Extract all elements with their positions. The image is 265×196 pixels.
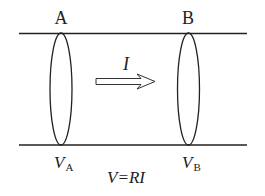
diagram-canvas: A B I VA VB V=RI	[0, 0, 265, 196]
label-a: A	[55, 8, 68, 28]
label-potential-b: VB	[182, 153, 201, 173]
cross-section-a	[50, 33, 72, 145]
current-arrow-icon	[96, 74, 155, 89]
potential-b-subscript: B	[193, 161, 200, 173]
cross-section-b	[178, 33, 200, 145]
label-ohms-law: V=RI	[107, 168, 146, 187]
label-current: I	[122, 54, 130, 74]
potential-a-subscript: A	[65, 161, 73, 173]
label-potential-a: VA	[54, 153, 73, 173]
conductor-diagram: A B I VA VB V=RI	[0, 0, 265, 196]
label-b: B	[182, 8, 194, 28]
